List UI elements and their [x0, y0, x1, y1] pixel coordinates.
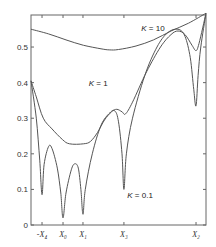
curves	[31, 13, 206, 218]
y-axis: 00.10.20.30.40.5	[17, 43, 206, 230]
y-tick-label: 0.2	[17, 150, 29, 159]
x-tick-label: X₁	[78, 230, 87, 239]
y-tick-label: 0.3	[17, 114, 29, 123]
x-tick-label: X₂	[191, 230, 200, 239]
curve-series-2	[31, 13, 206, 218]
x-tick-label: X₃	[119, 230, 128, 239]
y-tick-label: 0.4	[17, 79, 29, 88]
x-tick-label: X₀	[58, 230, 67, 239]
curve-label: K = 1	[89, 79, 108, 88]
y-tick-label: 0.1	[17, 185, 29, 194]
y-tick-label: 0	[24, 221, 29, 230]
x-tick-label: -X₄	[37, 230, 48, 239]
curve-label: K = 0.1	[127, 191, 153, 200]
curve-label: K = 10	[141, 24, 165, 33]
y-tick-label: 0.5	[17, 43, 29, 52]
line-chart: 00.10.20.30.40.5 -X₄X₀X₁X₃X₂ K = 10K = 1…	[0, 0, 216, 247]
